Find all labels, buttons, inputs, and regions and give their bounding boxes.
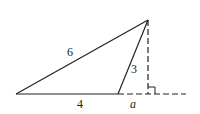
label-6: 6: [67, 45, 73, 59]
triangle-diagram: 6 3 4 a: [0, 0, 200, 114]
side-6: [16, 20, 148, 94]
label-3: 3: [131, 62, 137, 76]
label-a: a: [130, 97, 136, 111]
right-angle-marker: [148, 87, 155, 94]
side-3: [118, 20, 148, 94]
label-4: 4: [77, 97, 83, 111]
